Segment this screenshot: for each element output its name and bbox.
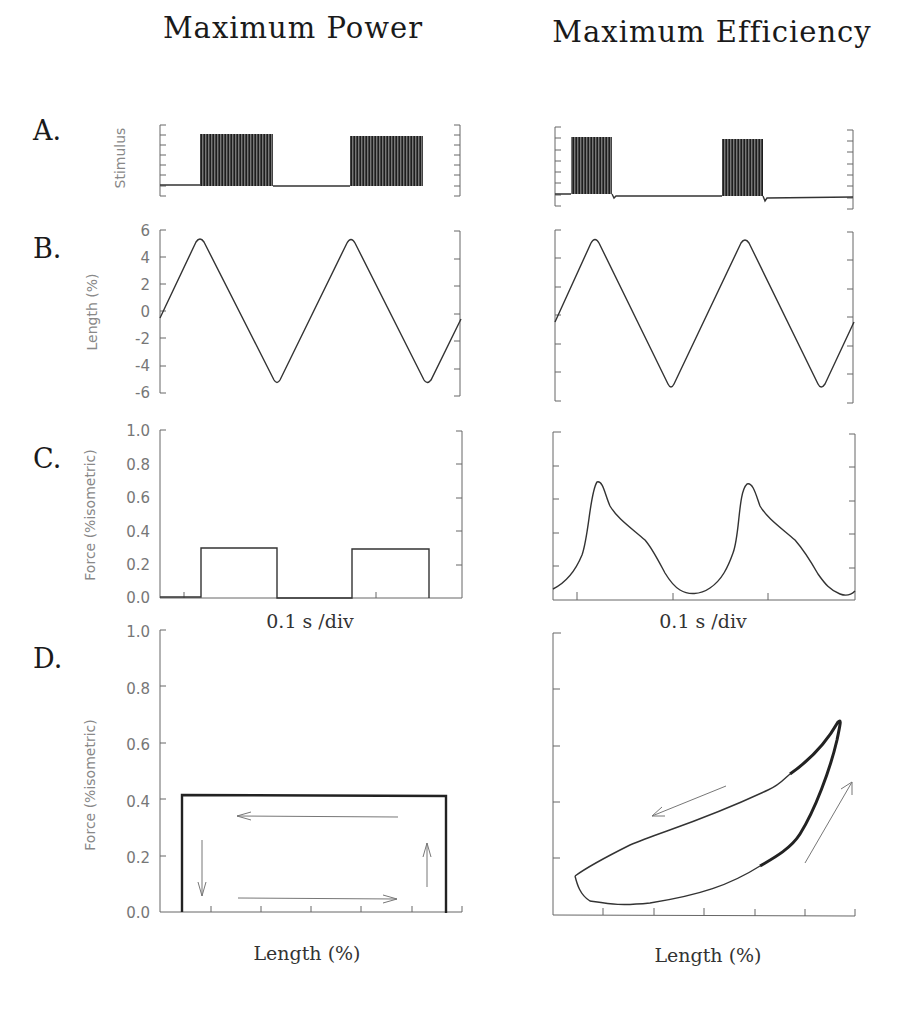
stimulus-baseline [555, 194, 853, 201]
workloop-axes [553, 633, 855, 916]
panel-label-c: C. [33, 443, 61, 474]
length-x-axis-title: Length (%) [253, 942, 360, 964]
tick-label: 0.4 [126, 523, 150, 541]
arrow-right-icon [238, 895, 397, 903]
stimulus-right-axis [454, 125, 460, 196]
tick-label: 1.0 [126, 422, 150, 440]
stimulus-burst [722, 139, 763, 196]
workloop-axes [160, 630, 462, 912]
arrow-down-left-icon [652, 786, 726, 816]
panel-c-left: Force (%isometric) 1.0 0.8 0.6 0.4 0.2 0… [82, 422, 462, 632]
tick-label: 1.0 [126, 623, 150, 641]
panel-label-d: D. [33, 643, 62, 674]
tick-label: 2 [140, 276, 150, 294]
panel-b-left: Length (%) 6 4 2 0 -2 -4 -6 [84, 222, 461, 402]
workloop-top-branch [575, 774, 790, 876]
title-max-power: Maximum Power [163, 11, 423, 45]
length-x-axis-title: Length (%) [654, 944, 761, 966]
tick-label: 4 [140, 249, 150, 267]
tick-label: 0.8 [126, 456, 150, 474]
tick-label: 6 [140, 222, 150, 240]
stimulus-burst [200, 134, 273, 186]
tick-label: 0.0 [126, 904, 150, 922]
tick-label: -4 [135, 357, 150, 375]
tick-label: 0.4 [126, 793, 150, 811]
tick-label: 0 [140, 303, 150, 321]
force-axis-title: Force (%isometric) [82, 719, 98, 850]
panel-a-right [555, 127, 853, 209]
length-trace [160, 239, 461, 383]
tick-label: 0.0 [126, 589, 150, 607]
force-axes [553, 432, 855, 600]
stimulus-burst [350, 136, 423, 186]
stimulus-burst [571, 137, 612, 194]
panel-label-b: B. [33, 233, 61, 264]
arrow-down-icon [198, 840, 206, 896]
panel-b-right [555, 230, 854, 403]
title-max-efficiency: Maximum Efficiency [552, 15, 871, 49]
figure: Maximum Power Maximum Efficiency A. B. C… [0, 0, 900, 1022]
tick-label: 0.2 [126, 556, 150, 574]
force-axis-title: Force (%isometric) [82, 449, 98, 580]
panel-d-right: Length (%) [553, 633, 855, 966]
panel-label-a: A. [32, 115, 61, 146]
panel-a-left: Stimulus [112, 125, 460, 196]
time-scale-label: 0.1 s /div [659, 610, 747, 632]
workloop-thick-segment [760, 721, 840, 866]
tick-label: -2 [135, 330, 150, 348]
arrow-left-icon [237, 812, 398, 820]
panel-c-right: 0.1 s /div [553, 432, 855, 632]
time-scale-label: 0.1 s /div [266, 610, 354, 632]
tick-label: 0.8 [126, 680, 150, 698]
tick-label: 0.2 [126, 849, 150, 867]
arrow-up-right-icon [805, 782, 852, 863]
arrow-up-icon [423, 843, 431, 887]
length-trace [555, 240, 854, 388]
panel-d-left: Force (%isometric) 1.0 0.8 0.6 0.4 0.2 0… [82, 623, 462, 964]
force-trace [160, 548, 429, 598]
tick-label: 0.6 [126, 736, 150, 754]
tick-label: -6 [135, 384, 150, 402]
length-axis-title: Length (%) [84, 274, 100, 351]
force-axes [160, 430, 462, 598]
stimulus-axis-title: Stimulus [112, 128, 128, 189]
tick-label: 0.6 [126, 489, 150, 507]
force-trace [553, 482, 855, 595]
workloop-rectangle [182, 795, 446, 913]
workloop-bottom-branch [575, 866, 760, 904]
